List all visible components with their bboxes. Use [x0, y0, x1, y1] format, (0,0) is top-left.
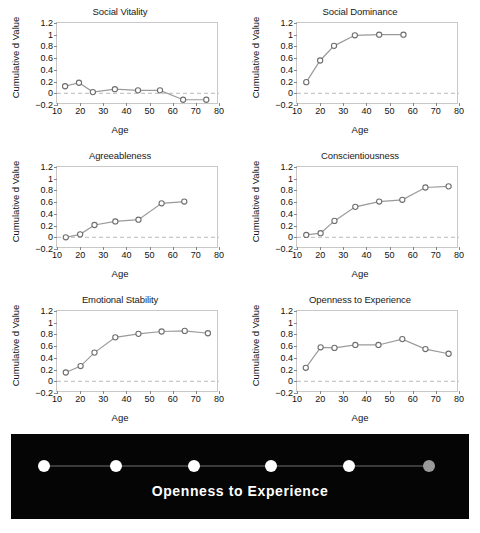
x-tick-label: 30 — [98, 250, 108, 260]
y-tick-label: 1 — [263, 174, 293, 184]
x-tick-label: 10 — [292, 250, 302, 260]
y-tick-label: 0.8 — [263, 185, 293, 195]
dark-panel-dot — [265, 460, 277, 472]
y-tick-label: 1.2 — [23, 306, 53, 316]
data-point-marker — [63, 235, 68, 240]
y-axis-label-emotional-stability: Cumulative d Value — [10, 298, 21, 394]
x-tick-label: 40 — [121, 106, 131, 116]
x-tick-label: 50 — [385, 106, 395, 116]
series-openness-to-experience — [297, 311, 459, 393]
series-agreeableness — [57, 167, 219, 249]
x-axis-label-emotional-stability: Age — [0, 412, 240, 423]
y-tick-label: 0.6 — [23, 197, 53, 207]
y-tick-label: 0.2 — [263, 365, 293, 375]
y-tick-label: 0.2 — [23, 365, 53, 375]
chart-title-openness-to-experience: Openness to Experience — [240, 294, 480, 305]
dark-panel-dot — [38, 460, 50, 472]
data-point-marker — [304, 232, 309, 237]
data-point-marker — [318, 345, 323, 350]
x-tick-mark — [219, 103, 220, 106]
x-tick-label: 50 — [145, 250, 155, 260]
data-point-marker — [332, 345, 337, 350]
plot-area-conscientiousness: −0.200.20.40.60.811.21020304050607080 — [296, 166, 458, 248]
y-axis-label-agreeableness: Cumulative d Value — [10, 154, 21, 250]
x-tick-label: 10 — [52, 394, 62, 404]
y-tick-label: 1 — [263, 30, 293, 40]
x-tick-label: 80 — [454, 394, 464, 404]
y-tick-label: 1.2 — [263, 306, 293, 316]
y-axis-label-social-dominance: Cumulative d Value — [250, 10, 261, 106]
x-tick-label: 60 — [408, 106, 418, 116]
y-tick-label: 0.2 — [23, 77, 53, 87]
x-tick-label: 20 — [315, 250, 325, 260]
data-point-marker — [63, 84, 68, 89]
data-point-marker — [353, 204, 358, 209]
x-tick-label: 70 — [191, 250, 201, 260]
y-tick-label: 0.4 — [263, 65, 293, 75]
y-tick-label: 0.2 — [23, 221, 53, 231]
dark-panel-dot — [423, 460, 435, 472]
y-tick-label: 0.6 — [263, 341, 293, 351]
x-tick-label: 40 — [361, 106, 371, 116]
series-social-vitality — [57, 23, 219, 105]
data-point-marker — [304, 80, 309, 85]
chart-panel-emotional-stability: Emotional StabilityCumulative d ValueAge… — [0, 288, 240, 432]
y-tick-label: 0 — [263, 376, 293, 386]
plot-area-agreeableness: −0.200.20.40.60.811.21020304050607080 — [56, 166, 218, 248]
x-tick-label: 60 — [168, 250, 178, 260]
x-tick-label: 20 — [315, 106, 325, 116]
data-point-marker — [400, 337, 405, 342]
dark-inset-panel: Openness to Experience — [11, 434, 469, 519]
y-tick-label: 0.6 — [23, 53, 53, 63]
y-tick-label: −0.2 — [23, 388, 53, 398]
x-tick-label: 80 — [214, 106, 224, 116]
x-tick-label: 20 — [75, 394, 85, 404]
y-tick-label: 0.6 — [263, 53, 293, 63]
data-point-marker — [113, 335, 118, 340]
figure-root: Social VitalityCumulative d ValueAge−0.2… — [0, 0, 480, 533]
y-tick-label: 1 — [23, 318, 53, 328]
y-tick-label: 0.4 — [263, 353, 293, 363]
data-point-marker — [159, 201, 164, 206]
data-point-marker — [446, 184, 451, 189]
x-tick-label: 60 — [168, 394, 178, 404]
data-point-marker — [92, 222, 97, 227]
x-axis-label-conscientiousness: Age — [240, 268, 480, 279]
data-point-marker — [377, 199, 382, 204]
y-tick-label: 1.2 — [263, 162, 293, 172]
y-tick-label: 0.8 — [23, 329, 53, 339]
data-point-marker — [318, 231, 323, 236]
x-tick-label: 70 — [431, 250, 441, 260]
x-tick-mark — [459, 247, 460, 250]
chart-panel-social-dominance: Social DominanceCumulative d ValueAge−0.… — [240, 0, 480, 144]
dark-panel-caption: Openness to Experience — [11, 483, 469, 499]
x-tick-label: 10 — [292, 394, 302, 404]
x-tick-label: 30 — [338, 106, 348, 116]
x-tick-label: 70 — [431, 106, 441, 116]
data-point-marker — [159, 329, 164, 334]
x-tick-label: 80 — [454, 106, 464, 116]
y-tick-label: 0 — [23, 232, 53, 242]
x-tick-label: 30 — [98, 394, 108, 404]
x-tick-label: 40 — [121, 250, 131, 260]
y-axis-label-social-vitality: Cumulative d Value — [10, 10, 21, 106]
y-tick-label: −0.2 — [263, 244, 293, 254]
data-point-marker — [205, 331, 210, 336]
series-conscientiousness — [297, 167, 459, 249]
data-point-marker — [181, 97, 186, 102]
y-tick-label: 0.4 — [23, 209, 53, 219]
x-tick-mark — [219, 247, 220, 250]
x-tick-label: 20 — [315, 394, 325, 404]
data-point-marker — [376, 342, 381, 347]
x-tick-label: 30 — [98, 106, 108, 116]
series-emotional-stability — [57, 311, 219, 393]
x-tick-label: 40 — [361, 394, 371, 404]
y-axis-label-openness-to-experience: Cumulative d Value — [250, 298, 261, 394]
y-tick-label: −0.2 — [263, 100, 293, 110]
y-tick-label: 0.4 — [23, 65, 53, 75]
y-tick-label: 0.8 — [263, 329, 293, 339]
x-tick-label: 40 — [361, 250, 371, 260]
y-tick-label: 1.2 — [23, 18, 53, 28]
x-tick-label: 80 — [214, 250, 224, 260]
x-tick-label: 70 — [191, 106, 201, 116]
